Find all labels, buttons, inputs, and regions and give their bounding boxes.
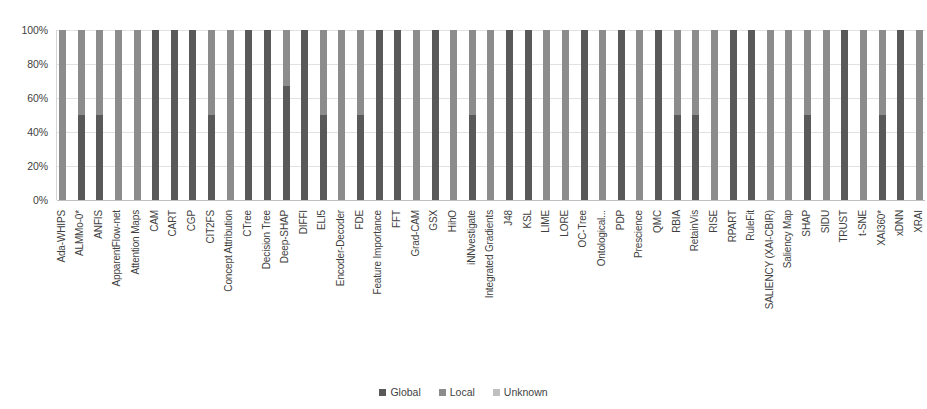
x-axis-label-slot: Ontological... [599,208,606,353]
x-axis-label-slot: Deep-SHAP [282,208,289,353]
bar [879,30,886,200]
bar [897,30,904,200]
x-axis-label-slot: Concept Attribution [226,208,233,353]
x-axis-tick-label: LORE [560,210,570,237]
y-axis: 0%20%40%60%80%100% [0,30,52,200]
x-axis-tick-label: DIFFI [299,210,309,234]
bar [171,30,178,200]
x-axis-tick-label: ELI5 [317,210,327,230]
bar-segment-global [96,115,103,200]
chart-legend: GlobalLocalUnknown [0,386,927,398]
bar [227,30,234,200]
x-axis-label-slot: RuleFit [748,208,755,353]
x-axis-tick-label: RuleFit [746,210,756,241]
bar [562,30,569,200]
x-axis-label-slot: SIDU [822,208,829,353]
bar-segment-global [525,30,532,200]
bar-segment-global [581,30,588,200]
bar-segment-local [227,30,234,200]
bar-segment-global [841,30,848,200]
x-axis-tick-label: FFT [392,210,402,228]
x-axis-tick-label: t-SNE [858,210,868,236]
legend-swatch-icon [439,389,446,396]
bar [487,30,494,200]
bar [525,30,532,200]
x-axis-tick-label: J48 [504,210,514,226]
x-axis-tick-label: Grad-CAM [411,210,421,257]
legend-swatch-icon [379,389,386,396]
x-axis-label-slot: Decision Tree [263,208,270,353]
x-axis-label-slot: FFT [394,208,401,353]
y-axis-tick-label: 0% [33,194,48,206]
x-axis-label-slot: Grad-CAM [412,208,419,353]
bar [506,30,513,200]
x-axis-tick-label: KSL [523,210,533,228]
bar-segment-local [823,30,830,200]
bar-segment-global [189,30,196,200]
x-axis-label-slot: Saliency Map [785,208,792,353]
x-axis-label-slot: XRAI [915,208,922,353]
bar-segment-local [413,30,420,200]
legend-item[interactable]: Unknown [493,386,548,398]
x-axis-tick-label: SALIENCY (XAI-CBIR) [765,210,775,309]
bar-segment-local [636,30,643,200]
bar [860,30,867,200]
bar [357,30,364,200]
bar [115,30,122,200]
legend-item[interactable]: Local [439,386,475,398]
bar [376,30,383,200]
legend-swatch-icon [493,389,500,396]
x-axis-tick-label: Encoder-Decoder [336,210,346,286]
x-axis-tick-label: CAM [150,210,160,232]
bar [823,30,830,200]
x-axis-label-slot: XAI360* [878,208,885,353]
bar-segment-global [264,30,271,200]
x-axis-tick-label: PDP [616,210,626,230]
bar-segment-global [208,115,215,200]
x-axis-tick-label: FDE [355,210,365,230]
bar [692,30,699,200]
bar-segment-global [78,115,85,200]
bar [748,30,755,200]
x-axis-tick-label: CTree [243,210,253,237]
bar [804,30,811,200]
bar-segment-global [357,115,364,200]
bar-segment-local [879,30,886,115]
bar-segment-local [599,30,606,200]
x-axis-tick-label: Concept Attribution [224,210,234,292]
x-axis-label-slot: QMC [655,208,662,353]
x-axis-label-slot: CAM [151,208,158,353]
bar [636,30,643,200]
bar [543,30,550,200]
x-axis-label-slot: TRUST [841,208,848,353]
bar-segment-global [730,30,737,200]
x-axis-label-slot: CGP [188,208,195,353]
x-axis-tick-label: Deep-SHAP [280,210,290,263]
bar-segment-local [78,30,85,115]
bar [208,30,215,200]
bar-segment-local [860,30,867,200]
x-axis-tick-label: GSX [429,210,439,231]
x-axis-tick-label: TRUST [839,210,849,243]
bar-segment-local [320,30,327,115]
x-axis-tick-label: SHAP [802,210,812,237]
bar [245,30,252,200]
legend-item[interactable]: Global [379,386,420,398]
bar-segment-global [879,115,886,200]
bar-segment-local [767,30,774,200]
bar-segment-local [562,30,569,200]
x-axis-tick-label: Integrated Gradients [485,210,495,298]
x-axis-label-slot: ANFIS [95,208,102,353]
bar [581,30,588,200]
bar [264,30,271,200]
plot-area [56,30,925,200]
legend-label: Unknown [504,386,548,398]
bar [189,30,196,200]
bar-segment-global [618,30,625,200]
x-axis-tick-label: XRAI [914,210,924,233]
bar [78,30,85,200]
x-axis-tick-label: QMC [653,210,663,233]
bar-segment-local [283,30,290,86]
x-axis-label-slot: RPART [729,208,736,353]
bar-segment-global [376,30,383,200]
